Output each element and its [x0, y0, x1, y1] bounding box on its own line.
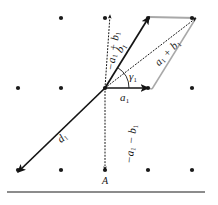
lattice-dot — [190, 86, 194, 90]
figure-caption-letter: A — [102, 176, 108, 186]
angle-label-gamma1: γ1 — [129, 71, 137, 83]
lattice-dot — [59, 16, 63, 20]
lattice-dot — [16, 86, 20, 90]
bottom-horizontal-rule — [7, 191, 205, 193]
lattice-dot — [59, 86, 63, 90]
lattice-dot — [59, 168, 63, 172]
lattice-vector-figure: a1 b1 a1 + b1 −a1 + b1 −a1 − b1 d1 γ1 A — [0, 0, 218, 205]
lattice-dot — [103, 16, 107, 20]
lattice-dot — [146, 168, 150, 172]
parallelogram-edge-top — [149, 17, 196, 18]
figure-canvas — [0, 0, 218, 205]
gamma-angle-arc — [118, 68, 129, 88]
vector-arrow-group — [18, 15, 196, 172]
vector-label-a1: a1 — [120, 92, 129, 104]
lattice-dot — [190, 168, 194, 172]
